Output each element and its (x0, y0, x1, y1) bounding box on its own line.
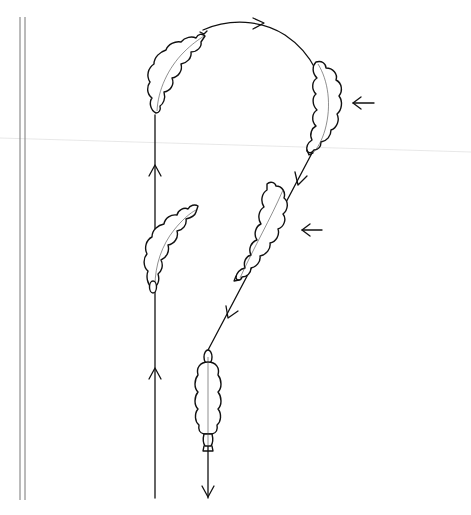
aid-arrow-1 (353, 97, 374, 109)
horse-3 (307, 61, 342, 155)
half-circle-path (203, 18, 316, 70)
horse-1 (148, 31, 207, 113)
riding-figure-diagram (0, 0, 471, 515)
horse-2 (144, 205, 198, 293)
approach-line (149, 115, 161, 498)
arena-wall (20, 17, 25, 500)
horse-tail-icon (150, 281, 157, 293)
horse-5 (195, 350, 221, 451)
horse-head-icon (200, 31, 207, 34)
scan-artifact-line (0, 138, 471, 152)
horse-4 (234, 182, 287, 281)
aid-arrow-2 (302, 224, 322, 236)
